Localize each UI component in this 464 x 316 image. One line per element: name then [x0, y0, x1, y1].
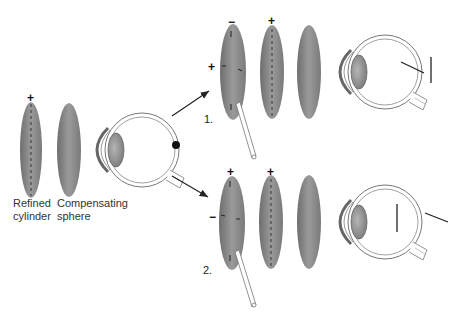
- step2-cyl-sign: +: [267, 166, 274, 178]
- step1-label: 1.: [204, 113, 213, 125]
- refined-cylinder-label: Refined cylinder: [13, 197, 51, 223]
- step2-sphere: [297, 175, 321, 269]
- step2-crossed-cylinder: [219, 176, 256, 307]
- step2-label: 2.: [203, 264, 212, 276]
- focal-point-dot: [172, 141, 180, 149]
- step1-refined-cylinder: [260, 25, 284, 119]
- eye-initial: [97, 113, 184, 188]
- handle: [235, 250, 256, 307]
- step1-crossed-cylinder: [220, 24, 256, 159]
- diagram-canvas: [0, 0, 464, 316]
- step2-left-sign: −: [209, 211, 216, 223]
- refined-cylinder-lens: [20, 102, 42, 198]
- step1-top-sign: −: [228, 16, 235, 28]
- cylinder-axis-sign: +: [27, 92, 34, 104]
- eye-step1: [340, 35, 427, 110]
- focal-line-oblique-2: [425, 213, 448, 222]
- step2-top-sign: +: [227, 166, 234, 178]
- step1-cyl-sign: +: [268, 15, 275, 27]
- compensating-sphere-lens: [57, 103, 81, 197]
- compensating-sphere-label: Compensating sphere: [57, 197, 128, 223]
- step1-sphere: [297, 25, 321, 119]
- step2-refined-cylinder: [259, 175, 283, 269]
- step1-left-sign: +: [208, 61, 215, 73]
- eye-step2: [340, 185, 427, 260]
- handle: [236, 102, 256, 158]
